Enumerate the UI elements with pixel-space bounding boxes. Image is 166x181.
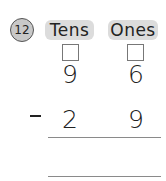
tens-regroup-box[interactable] <box>62 44 79 61</box>
subtrahend-tens-digit: 2 <box>58 107 82 133</box>
minuend-tens-digit: 9 <box>58 62 82 88</box>
tens-column-header: Tens <box>45 20 94 40</box>
answer-line[interactable] <box>48 176 161 177</box>
sum-line <box>48 137 161 138</box>
ones-column-header: Ones <box>108 20 158 40</box>
minus-sign <box>30 115 41 117</box>
subtrahend-ones-digit: 9 <box>124 107 148 133</box>
ones-regroup-box[interactable] <box>127 44 144 61</box>
problem-number-badge: 12 <box>10 18 34 42</box>
minuend-ones-digit: 6 <box>124 62 148 88</box>
